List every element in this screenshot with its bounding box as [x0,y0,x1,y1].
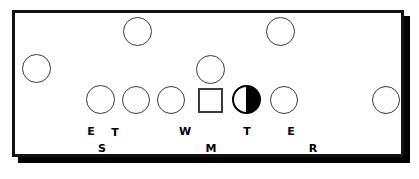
line-circle-2[interactable] [122,86,150,114]
label-e-right: E [284,126,298,137]
label-w: W [178,126,192,137]
defensive-formation-diagram: ETSWMTER [0,0,419,179]
line-square[interactable] [198,88,223,113]
label-t-left: T [108,127,122,138]
line-circle-4[interactable] [270,86,298,114]
right-wide-circle[interactable] [372,86,400,114]
line-circle-1[interactable] [86,85,115,114]
label-t-right: T [240,126,254,137]
top-left-circle[interactable] [123,17,152,46]
label-e-left: E [84,126,98,137]
left-wide-circle[interactable] [22,54,51,83]
top-right-circle[interactable] [266,17,295,46]
line-circle-3[interactable] [157,86,185,114]
label-m: M [204,143,218,154]
middle-circle[interactable] [196,55,225,84]
label-r: R [306,143,320,154]
label-s: S [95,143,109,154]
line-half-circle[interactable] [232,85,261,114]
